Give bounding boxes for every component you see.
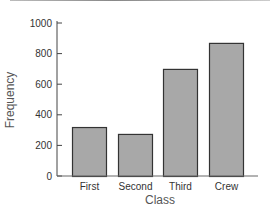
bar-second [119,134,153,176]
y-tick-label: 200 [35,140,52,151]
x-axis-title: Class [145,193,175,207]
y-tick-label: 0 [46,171,52,182]
x-tick-label: Crew [215,181,239,192]
bars [73,43,244,176]
bar-chart: 02004006008001000 FirstSecondThirdCrew F… [0,0,270,221]
bar-first [73,128,107,177]
y-tick-label: 1000 [30,18,53,29]
x-tick-label: Third [169,181,192,192]
y-tick-label: 800 [35,48,52,59]
bar-crew [210,43,244,176]
y-axis: 02004006008001000 [30,18,62,182]
y-tick-label: 600 [35,79,52,90]
x-tick-label: First [80,181,100,192]
x-axis: FirstSecondThirdCrew [57,176,258,192]
x-tick-label: Second [119,181,153,192]
y-axis-title: Frequency [3,72,17,129]
y-tick-label: 400 [35,109,52,120]
bar-third [164,69,198,176]
